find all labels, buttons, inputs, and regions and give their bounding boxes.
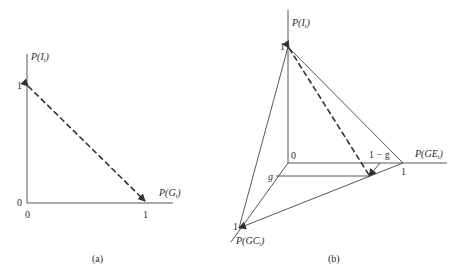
horizontal-axis-label: P(GEt) xyxy=(414,148,443,160)
diagonal-tick-1: 1 xyxy=(233,221,238,232)
dashed-budget-line xyxy=(28,86,145,201)
figure-canvas: P(It) 1 0 0 1 P(Gt) (a) P(It) 1 0 1 − g … xyxy=(0,0,468,280)
panel-b: P(It) 1 0 1 − g P(GEt) 1 g 1 P(GCt) (b) xyxy=(231,10,447,265)
diagonal-axis-label: P(GCt) xyxy=(235,235,265,247)
dashed-line xyxy=(289,48,369,175)
edge-bottom xyxy=(239,163,403,228)
panel-a: P(It) 1 0 0 1 P(Gt) (a) xyxy=(17,51,181,265)
x-tick-1: 1 xyxy=(143,209,148,220)
one-minus-g-label: 1 − g xyxy=(369,149,390,160)
y-tick-1: 1 xyxy=(17,80,22,91)
y-axis-label: P(It) xyxy=(30,51,49,63)
vertical-tick-1: 1 xyxy=(280,41,285,52)
x-axis-label: P(Gt) xyxy=(158,187,181,199)
diagonal-axis xyxy=(231,163,288,242)
origin-0: 0 xyxy=(291,150,296,161)
vertical-axis-label: P(It) xyxy=(291,17,310,29)
horizontal-tick-1: 1 xyxy=(401,166,406,177)
caption-a: (a) xyxy=(92,253,103,265)
y-origin-0: 0 xyxy=(17,197,22,208)
g-label: g xyxy=(268,171,273,182)
x-origin-0: 0 xyxy=(25,209,30,220)
caption-b: (b) xyxy=(328,253,340,265)
edge-top-left xyxy=(239,47,288,228)
